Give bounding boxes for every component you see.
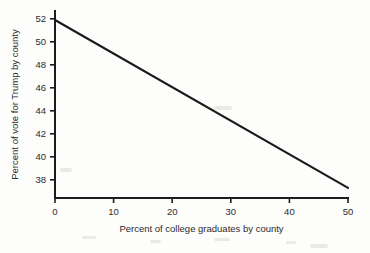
chart-figure: 52 50 48 46 44 42 40 38 0 10 20 30 40 50… xyxy=(0,0,370,253)
x-tick-label: 40 xyxy=(284,206,295,217)
y-tick-label: 46 xyxy=(35,82,46,93)
x-tick-label: 50 xyxy=(343,206,354,217)
y-tick-label: 48 xyxy=(35,59,46,70)
x-tick-labels: 0 10 20 30 40 50 xyxy=(52,206,353,217)
x-axis-title: Percent of college graduates by county xyxy=(119,223,283,234)
x-tick-label: 10 xyxy=(108,206,119,217)
x-tick-label: 0 xyxy=(52,206,57,217)
y-tick-label: 40 xyxy=(35,151,46,162)
y-tick-label: 44 xyxy=(35,105,46,116)
y-tick-label: 38 xyxy=(35,174,46,185)
regression-line xyxy=(55,20,348,188)
y-tick-label: 52 xyxy=(35,13,46,24)
y-tick-label: 42 xyxy=(35,128,46,139)
x-tick-label: 30 xyxy=(226,206,237,217)
y-axis-title: Percent of vote for Trump by county xyxy=(9,29,20,180)
line-chart: 52 50 48 46 44 42 40 38 0 10 20 30 40 50… xyxy=(0,0,370,253)
y-tick-labels: 52 50 48 46 44 42 40 38 xyxy=(35,13,46,185)
y-tick-label: 50 xyxy=(35,36,46,47)
x-tick-label: 20 xyxy=(167,206,178,217)
